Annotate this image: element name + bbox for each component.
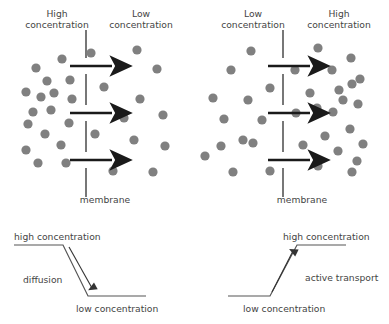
diffusion-process-label: diffusion xyxy=(23,274,62,285)
diffusion-panel: High concentration Low concentration xyxy=(21,8,173,205)
figure-canvas: High concentration Low concentration xyxy=(0,0,389,324)
particle xyxy=(28,107,37,116)
particle xyxy=(312,103,321,112)
particle xyxy=(334,85,343,94)
particle xyxy=(90,129,99,138)
diffusion-step-line xyxy=(14,245,146,296)
diffusion-graph-start-label: high concentration xyxy=(14,231,101,242)
particle xyxy=(108,166,117,175)
particle xyxy=(333,146,342,155)
particle xyxy=(129,135,138,144)
particle xyxy=(238,135,247,144)
active-transport-process-label: active transport xyxy=(305,272,379,283)
particle xyxy=(208,93,217,102)
particle xyxy=(347,79,356,88)
particle xyxy=(352,156,361,165)
particle xyxy=(200,151,209,160)
active-transport-direction-arrow xyxy=(272,251,293,292)
particle xyxy=(31,63,40,72)
panel1-left-label-line2: concentration xyxy=(25,19,89,30)
diffusion-active-transport-figure: High concentration Low concentration xyxy=(0,0,389,324)
particle xyxy=(243,95,252,104)
particle xyxy=(265,83,274,92)
particle xyxy=(132,45,141,54)
panel1-left-label-line1: High xyxy=(46,8,67,19)
particle xyxy=(33,158,42,167)
particle xyxy=(358,139,367,148)
active-transport-graph-start-label: low concentration xyxy=(243,303,325,314)
particle xyxy=(328,107,337,116)
particle xyxy=(248,138,257,147)
particle xyxy=(119,113,128,122)
particle xyxy=(338,95,347,104)
panel2-right-particles xyxy=(290,43,367,176)
panel1-right-label-line1: Low xyxy=(132,8,151,19)
active-transport-graph-end-label: high concentration xyxy=(283,231,370,242)
panel2-right-label-line2: concentration xyxy=(307,19,371,30)
particle xyxy=(246,46,255,55)
particle xyxy=(36,92,45,101)
particle xyxy=(158,110,167,119)
particle xyxy=(320,131,329,140)
particle xyxy=(219,114,228,123)
panel2-left-label-line1: Low xyxy=(244,8,263,19)
particle xyxy=(46,105,55,114)
panel1-right-label-line2: concentration xyxy=(109,19,173,30)
particle xyxy=(42,76,51,85)
particle xyxy=(298,140,307,149)
particle xyxy=(148,167,157,176)
particle xyxy=(64,118,73,127)
particle xyxy=(21,87,30,96)
particle xyxy=(99,82,108,91)
active-transport-graph: high concentration active transport low … xyxy=(228,231,379,314)
panel2-left-particles xyxy=(200,46,274,176)
panel2-right-label-line1: High xyxy=(328,8,349,19)
particle xyxy=(49,88,58,97)
panel1-left-particles xyxy=(21,54,76,167)
panel2-left-label-line2: concentration xyxy=(221,19,285,30)
active-transport-panel: Low concentration High concentration xyxy=(200,8,371,205)
particle xyxy=(265,166,274,175)
panel2-membrane-label: membrane xyxy=(277,194,328,205)
particle xyxy=(61,158,70,167)
particle xyxy=(21,145,30,154)
particle xyxy=(313,161,322,170)
diffusion-graph: high concentration diffusion low concent… xyxy=(14,231,158,314)
particle xyxy=(86,48,95,57)
particle xyxy=(23,119,32,128)
particle xyxy=(226,65,235,74)
particle xyxy=(346,53,355,62)
particle xyxy=(56,140,65,149)
particle xyxy=(347,167,356,176)
particle xyxy=(160,141,169,150)
particle xyxy=(228,167,237,176)
diffusion-graph-end-label: low concentration xyxy=(76,303,158,314)
particle xyxy=(67,94,76,103)
particle xyxy=(345,124,354,133)
particle xyxy=(327,65,336,74)
active-transport-step-line xyxy=(228,245,346,296)
particle xyxy=(40,129,49,138)
particle xyxy=(355,74,364,83)
particle xyxy=(257,115,266,124)
particle xyxy=(65,75,74,84)
particle xyxy=(313,43,322,52)
particle xyxy=(57,54,66,63)
particle xyxy=(305,88,314,97)
panel1-membrane-label: membrane xyxy=(80,194,131,205)
particle xyxy=(353,99,362,108)
particle xyxy=(135,94,144,103)
particle xyxy=(152,64,161,73)
panel1-transport-arrows xyxy=(70,66,112,160)
particle xyxy=(216,141,225,150)
